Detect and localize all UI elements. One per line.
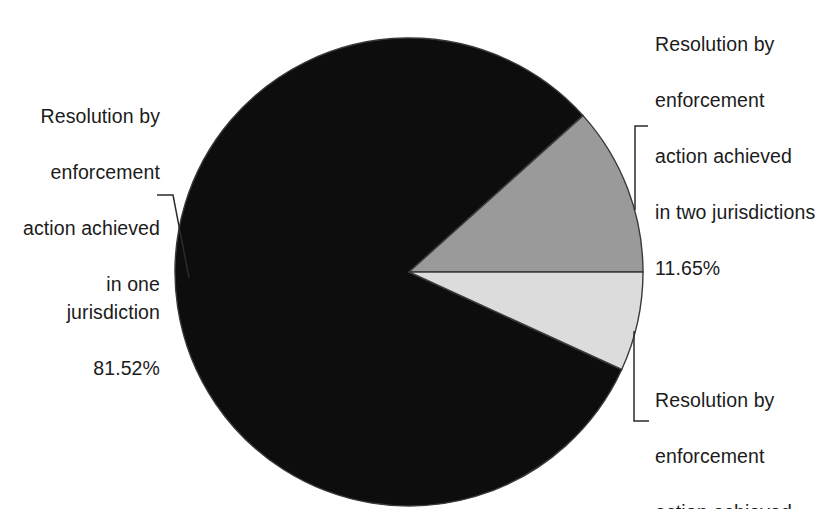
pie-label-three-line2: enforcement [655, 442, 828, 470]
pie-label-two-percent: 11.65% [655, 254, 828, 282]
pie-label-one-line3: action achieved [8, 214, 160, 242]
pie-label-three-or-more-jurisdictions: Resolution by enforcement action achieve… [655, 358, 828, 509]
pie-label-two-line3: action achieved [655, 142, 828, 170]
pie-label-three-line1: Resolution by [655, 386, 828, 414]
pie-label-one-line4: in one jurisdiction [8, 270, 160, 326]
pie-label-one-line1: Resolution by [8, 102, 160, 130]
leader-line-three-or-more-jurisdictions [634, 331, 649, 421]
pie-label-two-line4: in two jurisdictions [655, 198, 828, 226]
pie-label-one-percent: 81.52% [8, 354, 160, 382]
pie-label-one-jurisdiction: Resolution by enforcement action achieve… [8, 74, 160, 410]
pie-label-two-line1: Resolution by [655, 30, 828, 58]
pie-label-two-jurisdictions: Resolution by enforcement action achieve… [655, 2, 828, 310]
leader-line-two-jurisdictions [635, 126, 648, 210]
pie-label-two-line2: enforcement [655, 86, 828, 114]
pie-label-three-line3: action achieved [655, 498, 828, 509]
pie-chart-figure: Resolution by enforcement action achieve… [0, 0, 828, 509]
pie-label-one-line2: enforcement [8, 158, 160, 186]
